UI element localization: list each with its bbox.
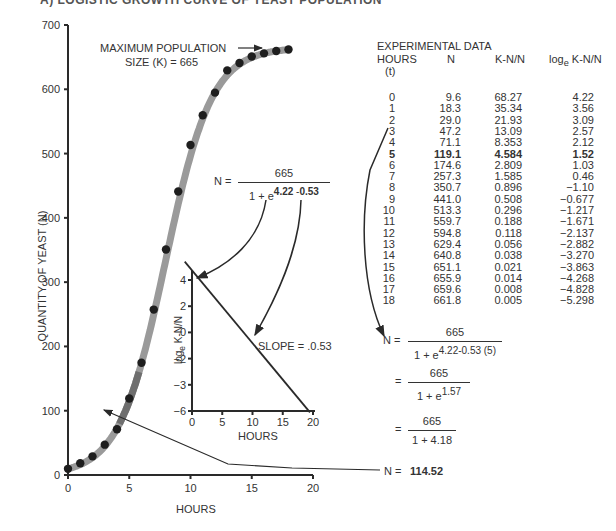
cell-n: 119.1 — [417, 149, 461, 160]
inset-ylabel-rest: K-N/N — [173, 316, 184, 346]
cell-log-k-n-n: −2.137 — [549, 228, 594, 239]
slope-value: 0.53 — [299, 186, 318, 197]
denominator-base: 1 + e — [414, 349, 439, 361]
max-population-label: MAXIMUM POPULATION — [100, 42, 226, 54]
cell-k-n-n: 0.188 — [477, 216, 522, 227]
main-y-axis-label: QUANTITY OF YEAST (N) — [36, 206, 48, 346]
step2-denominator: 1 + e1.57 — [408, 386, 470, 402]
cell-n: 29.0 — [417, 115, 461, 126]
data-point — [199, 111, 207, 119]
data-point — [248, 52, 256, 60]
slope-label: SLOPE = .0.53 — [258, 340, 332, 352]
inset-y-tick-label: 4 — [180, 274, 186, 286]
cell-n: 640.8 — [417, 250, 461, 261]
inset-x-tick-label: 0 — [189, 416, 195, 428]
cell-k-n-n: 0.118 — [477, 228, 522, 239]
step3-fraction: 665 1 + 4.18 — [408, 415, 456, 446]
x-tick-label: 15 — [246, 482, 258, 494]
data-point — [137, 359, 145, 367]
cell-hours: 4 — [377, 137, 395, 148]
data-point — [64, 465, 72, 473]
step3-numerator: 665 — [408, 415, 456, 427]
inset-x-tick-label: 15 — [277, 416, 289, 428]
intercept-arrow — [197, 200, 266, 278]
carrying-capacity-label: SIZE (K) = 665 — [125, 56, 198, 68]
cell-n: 18.3 — [417, 103, 461, 114]
cell-n: 661.8 — [417, 295, 461, 306]
y-tick-label: 600 — [42, 83, 60, 95]
step1-denominator: 1 + e4.22-0.53 (5) — [408, 345, 502, 361]
denominator-base: 1 + e — [249, 190, 274, 202]
cell-hours: 15 — [377, 262, 395, 273]
cell-hours: 12 — [377, 228, 395, 239]
header-log: log — [549, 53, 564, 65]
data-point — [125, 394, 133, 402]
cell-k-n-n: 35.34 — [477, 103, 522, 114]
cell-hours: 11 — [377, 216, 395, 227]
cell-k-n-n: 0.038 — [477, 250, 522, 261]
result-value: 114.52 — [410, 465, 443, 477]
header-t: (t) — [385, 65, 395, 77]
cell-n: 71.1 — [417, 137, 461, 148]
cell-k-n-n: 4.584 — [477, 149, 522, 160]
inset-y-tick-label: −3 — [173, 379, 186, 391]
inset-y-tick-label: −6 — [173, 405, 186, 417]
x-tick-label: 20 — [307, 482, 319, 494]
x-tick-label: 0 — [65, 482, 71, 494]
header-k-n-n: K-N/N — [495, 53, 525, 65]
y-tick-label: 100 — [42, 405, 60, 417]
data-point — [150, 305, 158, 313]
cell-log-k-n-n: −3.270 — [549, 250, 594, 261]
header-log-k-n-n: loge K-N/N — [549, 53, 602, 68]
cell-log-k-n-n: −1.671 — [549, 216, 594, 227]
inset-x-tick-label: 20 — [307, 416, 319, 428]
header-log-rest: K-N/N — [569, 53, 602, 65]
fraction-bar — [408, 382, 470, 383]
cell-log-k-n-n: 1.52 — [549, 149, 594, 160]
cell-log-k-n-n: 3.09 — [549, 115, 594, 126]
cell-hours: 1 — [377, 103, 395, 114]
data-point — [88, 452, 96, 460]
intercept-value: 4.22 — [274, 186, 293, 197]
x-tick-label: 10 — [184, 482, 196, 494]
step3-lhs: = — [395, 423, 401, 435]
cell-hours: 2 — [377, 115, 395, 126]
fraction-bar — [238, 182, 330, 183]
cell-log-k-n-n: 3.56 — [549, 103, 594, 114]
step2-numerator: 665 — [408, 367, 470, 379]
data-point — [284, 45, 292, 53]
cell-hours: 8 — [377, 182, 395, 193]
cell-k-n-n: 0.896 — [477, 182, 522, 193]
general-numerator: 665 — [238, 167, 330, 179]
step1-exponent: 4.22-0.53 (5) — [439, 345, 496, 356]
result-lhs: N = — [384, 465, 401, 477]
data-point — [272, 47, 280, 55]
cell-log-k-n-n: −5.298 — [549, 295, 594, 306]
inset-x-axis-label: HOURS — [238, 430, 278, 442]
step1-numerator: 665 — [408, 326, 502, 338]
y-tick-label: 700 — [42, 19, 60, 31]
step2-exponent: 1.57 — [442, 386, 461, 397]
denominator-base: 1 + e — [417, 390, 442, 402]
data-point — [186, 141, 194, 149]
cell-log-k-n-n: −3.863 — [549, 262, 594, 273]
cell-k-n-n: 8.353 — [477, 137, 522, 148]
data-point — [162, 245, 170, 253]
cell-log-k-n-n: −1.10 — [549, 182, 594, 193]
general-denominator: 1 + e4.22 -0.53 — [238, 186, 330, 202]
y-tick-label: 0 — [54, 469, 60, 481]
header-n: N — [447, 53, 455, 65]
table-title: EXPERIMENTAL DATA — [377, 40, 492, 52]
cell-hours: 5 — [377, 149, 395, 160]
header-hours: HOURS — [377, 53, 417, 65]
cell-hours: 18 — [377, 295, 395, 306]
fraction-bar — [408, 430, 456, 431]
inset-x-tick-label: 5 — [219, 416, 225, 428]
data-point — [235, 59, 243, 67]
main-x-axis-label: HOURS — [176, 503, 216, 515]
data-point — [101, 440, 109, 448]
step2-fraction: 665 1 + e1.57 — [408, 367, 470, 402]
x-tick-label: 5 — [126, 482, 132, 494]
data-point — [113, 425, 121, 433]
data-point — [76, 459, 84, 467]
